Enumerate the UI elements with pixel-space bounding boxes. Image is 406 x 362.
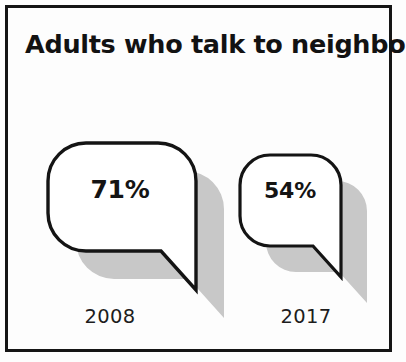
category-label-2008: 2008 bbox=[50, 305, 170, 328]
data-point-group-2008: 71% bbox=[30, 118, 210, 298]
infographic-canvas: Adults who talk to neighbors 71% 2008 bbox=[0, 0, 406, 362]
speech-bubble-2008 bbox=[30, 118, 210, 298]
data-point-group-2017: 54% bbox=[230, 145, 380, 295]
speech-bubble-2017 bbox=[230, 145, 380, 295]
category-label-2017: 2017 bbox=[246, 305, 366, 328]
data-label-2017: 54% bbox=[240, 178, 340, 203]
data-label-2008: 71% bbox=[60, 175, 180, 204]
chart-plot-area: 71% 2008 54% 2017 bbox=[0, 0, 406, 362]
